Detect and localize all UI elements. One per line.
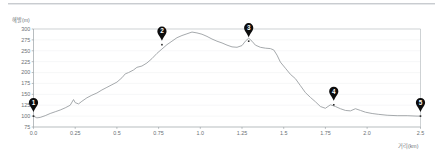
y-tick-label-300: 300 (21, 26, 30, 32)
x-tick-label-8: 2.0 (363, 130, 371, 136)
y-axis-ticks: 30027525022520017515012510075 (21, 26, 33, 130)
x-tick-label-6: 1.5 (280, 130, 288, 136)
chart-canvas: 30027525022520017515012510075 0.00.250.5… (0, 0, 443, 158)
x-axis-ticks: 0.00.250.50.751.01.251.51.752.02.5 (30, 127, 425, 136)
plot-frame (34, 29, 421, 127)
x-tick-label-4: 1.0 (197, 130, 205, 136)
waypoint-marker-3[interactable]: 3 (244, 23, 253, 42)
x-tick-label-7: 1.75 (320, 130, 331, 136)
x-tick-label-5: 1.25 (237, 130, 248, 136)
marker-label-2: 2 (160, 27, 164, 34)
y-tick-label-225: 225 (21, 59, 30, 65)
y-tick-label-150: 150 (21, 91, 30, 97)
y-tick-label-75: 75 (24, 124, 30, 130)
y-tick-label-250: 250 (21, 48, 30, 54)
gridlines (34, 40, 421, 116)
marker-point-3 (248, 40, 250, 42)
marker-label-1: 1 (32, 99, 36, 106)
waypoint-marker-2[interactable]: 2 (157, 27, 166, 46)
marker-point-2 (161, 44, 163, 46)
marker-point-4 (333, 104, 335, 106)
waypoint-markers[interactable]: 12345 (29, 23, 425, 117)
y-tick-label-175: 175 (21, 80, 30, 86)
x-tick-label-0: 0.0 (30, 130, 38, 136)
marker-point-5 (420, 115, 422, 117)
x-tick-label-2: 0.5 (113, 130, 121, 136)
marker-point-1 (33, 115, 35, 117)
waypoint-marker-4[interactable]: 4 (329, 87, 338, 106)
y-tick-label-275: 275 (21, 37, 30, 43)
x-tick-label-3: 0.75 (153, 130, 164, 136)
elevation-profile-chart-panel: 해발(m) 거리(km) 300275250225200175150125100… (0, 0, 443, 158)
x-tick-label-9: 2.5 (417, 130, 425, 136)
marker-label-3: 3 (247, 24, 251, 31)
y-tick-label-200: 200 (21, 69, 30, 75)
marker-label-4: 4 (332, 88, 336, 95)
x-tick-label-1: 0.25 (70, 130, 81, 136)
marker-label-5: 5 (419, 99, 423, 106)
y-tick-label-100: 100 (21, 113, 30, 119)
